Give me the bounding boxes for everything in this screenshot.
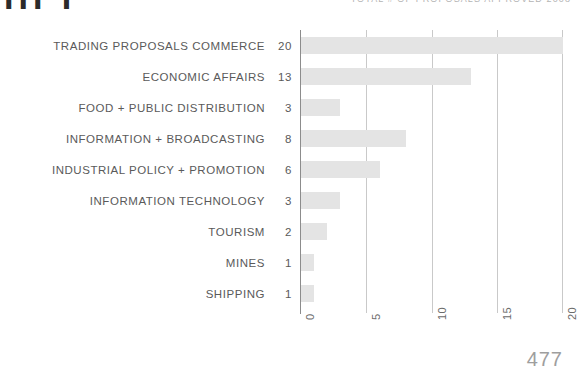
row-label-group: INFORMATION + BROADCASTING 8 — [0, 123, 292, 154]
page-number: 477 — [527, 348, 563, 371]
bar-row: INFORMATION + BROADCASTING 8 — [0, 123, 577, 154]
xtick-10: 10 — [436, 290, 448, 320]
value-label: 2 — [272, 226, 292, 238]
bar — [301, 223, 327, 240]
row-label-group: ECONOMIC AFFAIRS 13 — [0, 61, 292, 92]
bar-row: TOURISM 2 — [0, 216, 577, 247]
bar-row: MINES 1 — [0, 247, 577, 278]
category-label: INFORMATION TECHNOLOGY — [90, 195, 265, 207]
bar-row: INFORMATION TECHNOLOGY 3 — [0, 185, 577, 216]
bar-row: INDUSTRIAL POLICY + PROMOTION 6 — [0, 154, 577, 185]
bar-chart: TRADING PROPOSALS COMMERCE 20 ECONOMIC A… — [0, 14, 577, 359]
value-label: 1 — [272, 257, 292, 269]
bar — [301, 192, 340, 209]
row-label-group: SHIPPING 1 — [0, 278, 292, 309]
category-label: FOOD + PUBLIC DISTRIBUTION — [78, 102, 265, 114]
category-label: TRADING PROPOSALS COMMERCE — [53, 40, 265, 52]
bar — [301, 161, 380, 178]
value-label: 1 — [272, 288, 292, 300]
value-label: 6 — [272, 164, 292, 176]
value-label: 20 — [272, 40, 292, 52]
category-label: ECONOMIC AFFAIRS — [142, 71, 265, 83]
value-label: 13 — [272, 71, 292, 83]
chart-title: TOTAL # OF PROPOSALS APPROVED 2008 — [351, 0, 571, 4]
category-label: SHIPPING — [206, 288, 265, 300]
page-header: III I TOTAL # OF PROPOSALS APPROVED 2008 — [0, 0, 577, 14]
xtick-15: 15 — [501, 290, 513, 320]
bar — [301, 254, 314, 271]
xtick-0: 0 — [304, 290, 316, 320]
row-label-group: FOOD + PUBLIC DISTRIBUTION 3 — [0, 92, 292, 123]
row-label-group: INFORMATION TECHNOLOGY 3 — [0, 185, 292, 216]
row-label-group: TOURISM 2 — [0, 216, 292, 247]
bar — [301, 130, 406, 147]
bar-row: ECONOMIC AFFAIRS 13 — [0, 61, 577, 92]
value-label: 3 — [272, 195, 292, 207]
xtick-20: 20 — [566, 290, 577, 320]
bar — [301, 37, 563, 54]
bar-row: SHIPPING 1 — [0, 278, 577, 309]
header-tick-marks: III I — [4, 0, 76, 14]
category-label: TOURISM — [208, 226, 265, 238]
row-label-group: MINES 1 — [0, 247, 292, 278]
row-label-group: INDUSTRIAL POLICY + PROMOTION 6 — [0, 154, 292, 185]
row-label-group: TRADING PROPOSALS COMMERCE 20 — [0, 30, 292, 61]
xtick-5: 5 — [370, 290, 382, 320]
category-label: MINES — [226, 257, 265, 269]
category-label: INDUSTRIAL POLICY + PROMOTION — [52, 164, 265, 176]
bar — [301, 68, 471, 85]
bar-row: FOOD + PUBLIC DISTRIBUTION 3 — [0, 92, 577, 123]
bar — [301, 99, 340, 116]
value-label: 8 — [272, 133, 292, 145]
bar-row: TRADING PROPOSALS COMMERCE 20 — [0, 30, 577, 61]
category-label: INFORMATION + BROADCASTING — [66, 133, 265, 145]
value-label: 3 — [272, 102, 292, 114]
